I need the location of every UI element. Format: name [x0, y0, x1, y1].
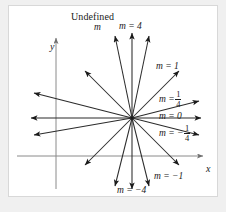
label-slope-negative-1: m = −1: [154, 172, 183, 182]
fraction-one-quarter: 14: [175, 90, 181, 109]
figure-root: Undefined m m = 4 m = 1 m =14 m = 0 m = …: [0, 0, 226, 212]
slope-diagram-svg: [9, 6, 218, 197]
ray-m-4-upright: [132, 36, 149, 118]
label-slope-4: m = 4: [119, 22, 142, 32]
ray-m-neg4-downright: [132, 118, 149, 186]
ray-m-negquarter-upleft: [34, 93, 132, 118]
ray-vertex-point: [130, 116, 133, 119]
fraction-denominator: 4: [175, 100, 181, 109]
label-slope-one-quarter-prefix: m =: [159, 94, 175, 104]
label-undefined-m: m: [94, 23, 101, 33]
label-slope-1: m = 1: [156, 62, 179, 72]
label-slope-negative-one-quarter-prefix: m = −: [159, 128, 183, 138]
figure-frame: Undefined m m = 4 m = 1 m =14 m = 0 m = …: [8, 5, 218, 197]
label-axis-x: x: [206, 164, 210, 175]
fraction-negative-one-quarter: 14: [184, 124, 190, 143]
fraction-numerator: 1: [175, 90, 181, 99]
label-slope-one-quarter: m =14: [159, 90, 181, 109]
label-slope-negative-4: m = −4: [117, 186, 146, 196]
ray-m-neg4-upleft: [115, 36, 132, 118]
ray-m-4-downleft: [115, 118, 132, 186]
label-undefined: Undefined: [71, 12, 114, 23]
fraction-denominator: 4: [184, 134, 190, 143]
label-slope-0: m = 0: [159, 112, 182, 122]
fraction-numerator: 1: [184, 124, 190, 133]
ray-m-neg1-upleft: [85, 71, 132, 118]
label-axis-y: y: [50, 42, 54, 53]
label-slope-negative-one-quarter: m = −14: [159, 124, 190, 143]
